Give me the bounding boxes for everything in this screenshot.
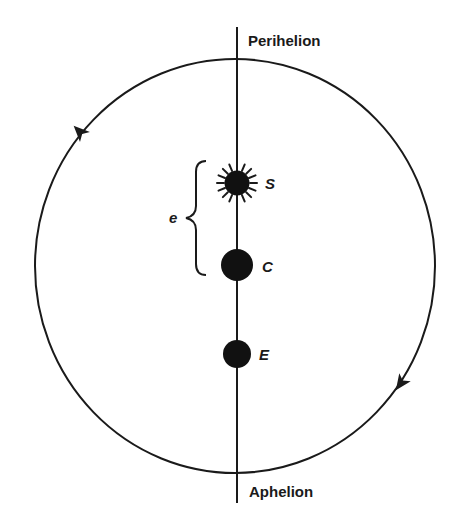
direction-arrow-upper-left-icon (69, 121, 90, 142)
earth-dot (223, 340, 251, 368)
eccentricity-label: e (169, 209, 177, 226)
earth-label: E (259, 346, 270, 363)
orbit-center-dot (221, 249, 253, 281)
orbit-diagram: Perihelion Aphelion S C E e (0, 0, 464, 529)
eccentricity-brace (186, 161, 206, 275)
perihelion-label: Perihelion (248, 32, 321, 49)
aphelion-label: Aphelion (249, 483, 313, 500)
sun-icon (217, 163, 257, 203)
center-label: C (262, 258, 274, 275)
sun-label: S (265, 175, 275, 192)
